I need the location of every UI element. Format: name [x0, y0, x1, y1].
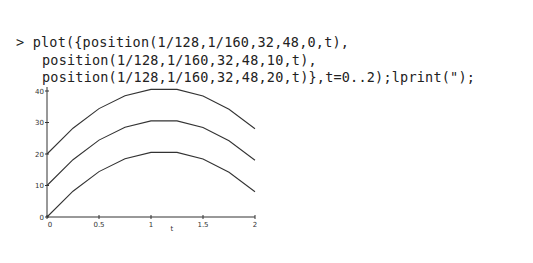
x-tick-label: 0 [48, 221, 52, 229]
curve-2 [47, 89, 255, 154]
x-tick-label: 1 [149, 221, 153, 229]
x-tick-label: 0.5 [93, 221, 104, 229]
x-tick-label: 2 [253, 221, 257, 229]
y-tick-label: 30 [35, 119, 44, 127]
x-tick-label: 1.5 [197, 221, 208, 229]
y-tick-label: 40 [35, 88, 44, 96]
y-tick-label: 0 [40, 214, 44, 222]
y-tick-label: 20 [35, 151, 44, 159]
curve-1 [47, 121, 255, 186]
tick-labels: 01020304000.511.52 [35, 88, 257, 230]
x-axis-label: t [170, 225, 173, 233]
y-tick-label: 10 [35, 182, 44, 190]
plot-output: 01020304000.511.52 t [0, 0, 533, 263]
curve-0 [47, 152, 255, 217]
plot-curves [47, 89, 255, 217]
